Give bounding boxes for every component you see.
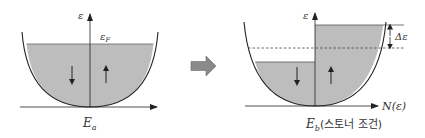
delta-epsilon-label: Δε <box>394 31 408 42</box>
stoner-diagram: ε εF Ea ε Δε N(ε) Eb(스토너 조건) <box>0 0 425 138</box>
transition-arrow-icon <box>191 56 216 76</box>
x-axis-label: N(ε) <box>381 100 406 113</box>
left-caption: Ea <box>82 116 97 132</box>
right-y-axis-label: ε <box>303 10 308 21</box>
spin-up-filled-band <box>315 25 383 106</box>
right-caption: Eb(스토너 조건) <box>305 117 382 133</box>
left-panel-paramagnetic: ε εF Ea <box>20 10 158 132</box>
fermi-label: εF <box>100 31 111 44</box>
right-panel-ferromagnetic: ε Δε N(ε) Eb(스토너 조건) <box>244 10 408 133</box>
left-y-axis-label: ε <box>78 10 83 21</box>
